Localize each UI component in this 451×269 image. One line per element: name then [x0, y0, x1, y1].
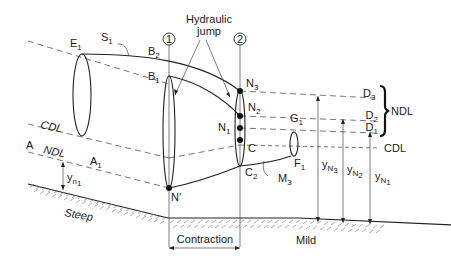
label-ndl-right: NDL — [391, 105, 413, 117]
m3-profile — [240, 156, 291, 166]
point-c — [237, 137, 243, 143]
label-hydraulic: Hydraulic — [186, 13, 232, 25]
ndl-d1-line — [240, 128, 375, 133]
section-1-label: 1 — [166, 33, 172, 45]
label-yn1: yn1 — [67, 171, 82, 188]
point-n1 — [237, 125, 243, 131]
label-ndl-left: NDL — [43, 143, 67, 159]
point-n2 — [237, 113, 243, 119]
s1-profile — [82, 54, 240, 91]
section-e1-ellipse — [73, 54, 91, 136]
label-f1: F1 — [294, 157, 306, 172]
section-1: 1 — [163, 33, 175, 247]
label-g1: G1 — [290, 112, 304, 127]
label-m3: M3 — [278, 172, 292, 187]
section-f1-ellipse — [290, 132, 298, 156]
label-n2: N2 — [248, 101, 261, 116]
label-jump: jump — [196, 25, 221, 37]
channel-bed — [28, 184, 451, 233]
diagram-canvas: 1 2 — [0, 0, 451, 269]
ndl-steep-line — [28, 152, 169, 188]
cdl-mid-line — [169, 145, 240, 158]
water-surface — [73, 54, 298, 188]
cdl-right-line — [240, 145, 380, 148]
point-n3 — [237, 88, 243, 94]
label-n1: N1 — [218, 121, 231, 136]
ndl-brace-icon — [380, 86, 389, 136]
ndl-d2-line — [240, 116, 375, 121]
ndl-d3-line — [240, 91, 375, 98]
label-yn1-right: yN1 — [375, 170, 391, 187]
label-mild: Mild — [296, 234, 316, 246]
label-b1: B1 — [148, 70, 160, 85]
label-yn2: yN2 — [347, 163, 363, 180]
points — [166, 88, 243, 191]
label-cdl-left: CDL — [40, 118, 64, 134]
label-c: C — [248, 142, 256, 154]
label-s1: S1 — [101, 31, 113, 46]
label-cdl-right: CDL — [384, 142, 406, 154]
jump-pointer-left — [175, 40, 200, 95]
jump-lower-profile — [169, 166, 240, 188]
labels: E1 S1 B2 B1 Hydraulic jump N3 N2 N1 C C2… — [26, 13, 413, 246]
label-c2: C2 — [245, 166, 258, 181]
label-n-prime: N′ — [171, 191, 181, 203]
hydraulic-jump-pointers — [174, 40, 230, 97]
label-steep: Steep — [64, 206, 94, 223]
hydraulic-jump-diagram: 1 2 — [0, 0, 451, 269]
jump-pointer-right — [206, 40, 230, 97]
label-a: A — [26, 139, 34, 151]
section-2-label: 2 — [237, 33, 243, 45]
label-e1: E1 — [70, 37, 82, 52]
s1-leader — [118, 44, 129, 56]
label-contraction: Contraction — [177, 233, 233, 245]
label-d3: D3 — [363, 87, 376, 102]
label-yn3: yN3 — [322, 158, 338, 175]
label-n3: N3 — [246, 77, 259, 92]
arrowhead-icon — [226, 92, 230, 97]
label-a1: A1 — [90, 155, 102, 170]
